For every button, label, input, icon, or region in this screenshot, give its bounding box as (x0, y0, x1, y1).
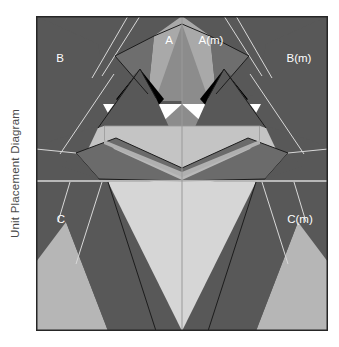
label-c: C (57, 213, 65, 225)
label-a-m: A(m) (199, 34, 224, 46)
label-a: A (165, 34, 173, 46)
label-c-m: C(m) (287, 213, 313, 225)
diagram-svg: A A(m) B B(m) C C(m) (36, 16, 328, 331)
unit-placement-diagram: A A(m) B B(m) C C(m) (36, 16, 328, 331)
diagram-caption: Unit Placement Diagram (0, 0, 30, 347)
page-root: Unit Placement Diagram (0, 0, 339, 347)
label-b: B (56, 52, 64, 64)
caption-text: Unit Placement Diagram (9, 109, 21, 238)
label-b-m: B(m) (287, 52, 312, 64)
